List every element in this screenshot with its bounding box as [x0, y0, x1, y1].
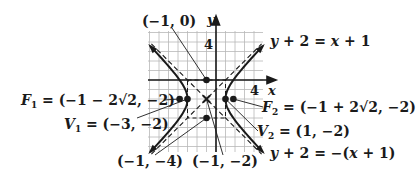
y-tick-label: 4: [204, 38, 213, 51]
label-top-point: (−1, 0): [142, 14, 196, 28]
hyperbola-diagram: (−1, 0) y 4 4 x y + 2 = x + 1 y + 2 = −(…: [0, 0, 417, 184]
x-tick-label: 4: [250, 84, 259, 97]
bottom-point-label: (−1, −4): [117, 154, 183, 168]
vertex-2-label: V2 = (1, −2): [257, 124, 350, 141]
x-axis-label: x: [268, 84, 276, 97]
asymptote-negative-label: y + 2 = −(x + 1): [270, 146, 395, 160]
asymptote-positive-label: y + 2 = x + 1: [270, 34, 370, 48]
vertex-1-label: V1 = (−3, −2): [64, 117, 169, 134]
center-label: (−1, −2): [192, 154, 258, 168]
y-axis-label: y: [207, 13, 215, 26]
focus-2-label: F2 = (−1 + 2√2, −2): [262, 100, 416, 117]
focus-1-label: F1 = (−1 − 2√2, −2): [21, 93, 175, 110]
